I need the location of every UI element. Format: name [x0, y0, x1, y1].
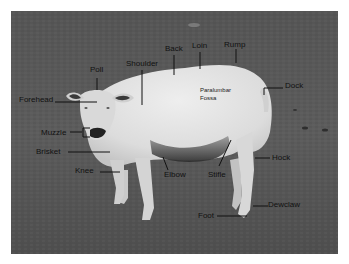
stifle-leader-line: [219, 140, 231, 166]
label-forehead: Forehead: [19, 95, 53, 104]
label-rump: Rump: [224, 40, 245, 49]
label-knee: Knee: [75, 166, 94, 175]
label-hock: Hock: [272, 153, 290, 162]
label-elbow: Elbow: [164, 170, 186, 179]
label-loin: Loin: [192, 41, 207, 50]
label-fossa: Fossa: [200, 94, 216, 102]
label-poll: Poll: [90, 65, 103, 74]
label-brisket: Brisket: [36, 147, 60, 156]
label-stifle: Stifle: [208, 170, 226, 179]
label-back: Back: [165, 44, 183, 53]
label-paralumbar: Paralumbar: [200, 86, 231, 94]
label-muzzle: Muzzle: [41, 128, 66, 137]
muzzle-bracket: [83, 128, 90, 137]
elbow-leader-line: [163, 157, 168, 170]
label-foot: Foot: [198, 211, 214, 220]
label-dock: Dock: [285, 81, 303, 90]
label-shoulder: Shoulder: [126, 59, 158, 68]
label-dewclaw: Dewclaw: [268, 200, 300, 209]
